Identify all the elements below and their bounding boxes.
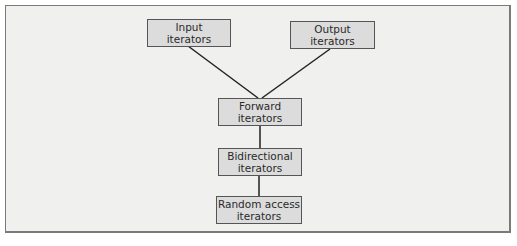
node-label-line2: iterators [237,210,282,222]
node-random-access-iterators: Random access iterators [216,196,302,224]
node-label-line1: Output [314,23,350,35]
node-label-line2: iterators [167,33,212,45]
node-output-iterators: Output iterators [290,21,375,49]
edge-output-forward [262,49,330,98]
node-label-line2: iterators [238,162,283,174]
node-forward-iterators: Forward iterators [218,98,302,126]
node-label-line1: Bidirectional [227,150,293,162]
node-input-iterators: Input iterators [147,19,231,47]
node-label-line1: Forward [239,100,281,112]
edge-input-forward [188,46,258,98]
node-label-line2: iterators [238,112,283,124]
node-bidirectional-iterators: Bidirectional iterators [218,148,302,176]
node-label-line1: Random access [218,198,300,210]
node-label-line1: Input [175,21,202,33]
node-label-line2: iterators [310,35,355,47]
